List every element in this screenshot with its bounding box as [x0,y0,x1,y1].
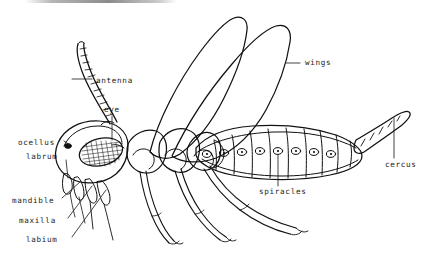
cercus-outline [354,111,410,153]
spiracles-row [202,148,335,158]
spiracle [326,151,335,158]
label-mandible: mandible [12,197,54,205]
mouthpart-stroke [79,197,85,223]
wing-lower [172,25,290,162]
thorax-abdomen-joint [214,140,224,168]
legs-group [140,166,308,244]
coxa-arcs [133,149,213,169]
leader-labium [72,190,106,237]
label-eye: eye [104,106,120,114]
spiracle [237,149,246,156]
spiracle [255,148,264,155]
label-ocellus: ocellus [18,139,55,147]
maxillary-palp [90,201,93,229]
cercus-group [354,111,410,153]
prothorax [127,130,167,173]
foreleg [140,171,183,244]
spiracle [202,151,211,158]
mouthpart-stroke [70,192,75,217]
compound-eye [76,134,125,171]
label-labium: labium [26,236,58,244]
label-antenna: antenna [96,77,133,85]
antenna-tip [78,42,84,44]
label-maxilla: maxilla [19,217,56,225]
spiracle [291,148,300,155]
hindleg [204,166,308,235]
midleg [175,169,236,242]
label-spiracles: spiracles [259,188,306,196]
leader-mandible [62,182,80,198]
label-cercus: cercus [385,161,417,169]
labial-palp [104,204,113,240]
spiracle [309,149,318,156]
spiracle [273,148,282,155]
insect-drawing [0,0,432,261]
ocellus [65,144,72,149]
label-labrum: labrum [26,153,58,161]
label-wings: wings [305,59,331,67]
insect-anatomy-figure: antenna eye ocellus labrum mandible maxi… [0,0,432,261]
mouthparts-group [63,174,114,240]
